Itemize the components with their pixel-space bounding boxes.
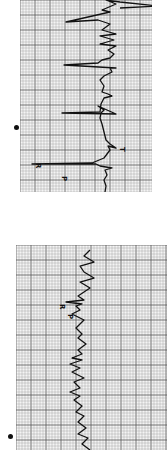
wave-label-r: R	[58, 304, 66, 310]
wave-label-t: T	[118, 147, 126, 152]
wave-label-p: P	[66, 314, 74, 319]
ecg-strip-top: RPT	[20, 0, 152, 192]
strip-marker-dot-bottom	[8, 434, 13, 439]
wave-label-p: P	[60, 176, 68, 181]
wave-label-r: R	[34, 163, 42, 169]
strip-marker-dot-top	[14, 125, 19, 130]
ecg-strip-bottom: RP	[16, 245, 167, 450]
